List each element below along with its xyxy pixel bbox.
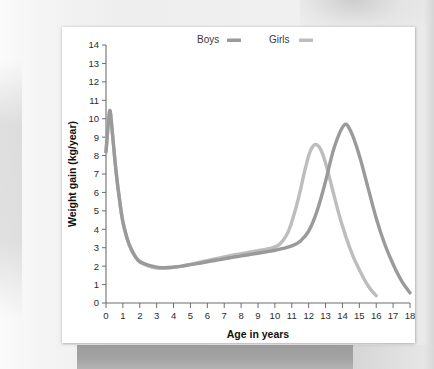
chart-panel: BoysGirls 01234567891011121314 012345678… xyxy=(62,27,415,343)
y-tick-label-6: 6 xyxy=(94,187,99,198)
x-tick-label-13: 13 xyxy=(320,310,331,321)
x-tick-label-18: 18 xyxy=(405,310,415,321)
x-tick-label-4: 4 xyxy=(171,310,176,321)
x-tick-label-6: 6 xyxy=(205,310,210,321)
x-tick-label-15: 15 xyxy=(354,310,365,321)
y-tick-label-11: 11 xyxy=(89,95,99,106)
weight-gain-line-chart: BoysGirls 01234567891011121314 012345678… xyxy=(62,27,415,343)
y-axis-ticks: 01234567891011121314 xyxy=(88,39,106,308)
legend-swatch-boys xyxy=(227,39,241,43)
y-tick-label-1: 1 xyxy=(94,279,99,290)
x-tick-label-0: 0 xyxy=(103,310,108,321)
y-axis-title: Weight gain (kg/year) xyxy=(66,121,78,227)
x-tick-label-9: 9 xyxy=(255,310,260,321)
y-tick-label-13: 13 xyxy=(88,58,99,69)
y-tick-label-9: 9 xyxy=(94,132,99,143)
series-line-boys xyxy=(106,111,410,293)
x-tick-label-11: 11 xyxy=(287,310,297,321)
background-smudge-left xyxy=(0,60,22,320)
x-tick-label-8: 8 xyxy=(238,310,243,321)
y-tick-label-8: 8 xyxy=(94,150,99,161)
x-axis-title: Age in years xyxy=(227,328,290,340)
x-tick-label-7: 7 xyxy=(222,310,227,321)
y-tick-label-0: 0 xyxy=(94,297,99,308)
y-tick-label-5: 5 xyxy=(94,205,99,216)
legend-label-boys: Boys xyxy=(197,34,219,45)
x-tick-label-3: 3 xyxy=(154,310,159,321)
chart-legend: BoysGirls xyxy=(197,34,313,45)
chart-series xyxy=(106,111,410,296)
y-tick-label-14: 14 xyxy=(88,39,99,50)
x-tick-label-12: 12 xyxy=(303,310,314,321)
background-edge-right xyxy=(424,0,434,369)
y-tick-label-2: 2 xyxy=(94,261,99,272)
platform-bar-shadow xyxy=(353,345,434,369)
x-tick-label-14: 14 xyxy=(337,310,348,321)
legend-label-girls: Girls xyxy=(269,34,290,45)
y-tick-label-10: 10 xyxy=(88,113,99,124)
x-axis-ticks: 0123456789101112131415161718 xyxy=(103,303,415,321)
x-tick-label-17: 17 xyxy=(388,310,399,321)
y-tick-label-3: 3 xyxy=(94,242,99,253)
x-tick-label-16: 16 xyxy=(371,310,382,321)
x-tick-label-1: 1 xyxy=(120,310,125,321)
x-tick-label-5: 5 xyxy=(188,310,193,321)
x-tick-label-10: 10 xyxy=(270,310,281,321)
platform-bar xyxy=(77,345,353,369)
y-tick-label-7: 7 xyxy=(94,168,99,179)
y-tick-label-12: 12 xyxy=(88,76,99,87)
legend-swatch-girls xyxy=(299,39,313,43)
y-tick-label-4: 4 xyxy=(94,224,99,235)
x-tick-label-2: 2 xyxy=(137,310,142,321)
